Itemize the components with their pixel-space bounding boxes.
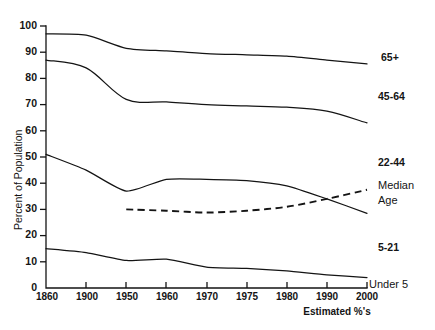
y-tick-label-30: 30 xyxy=(25,202,37,214)
y-tick-label-90: 90 xyxy=(25,45,37,57)
y-axis-title: Percent of Population xyxy=(12,129,24,230)
series-label-22-44[interactable]: 22-44 xyxy=(378,156,405,168)
line-chart-plot: 100 90 80 70 60 50 40 30 20 10 0 1860 19 xyxy=(0,0,435,330)
x-tick-label-1975: 1975 xyxy=(236,291,259,302)
chart-container: 100 90 80 70 60 50 40 30 20 10 0 1860 19 xyxy=(0,0,435,330)
x-tick-label-1900: 1900 xyxy=(76,291,99,302)
y-tick-label-60: 60 xyxy=(25,124,37,136)
x-tick-label-2000: 2000 xyxy=(356,291,379,302)
series-labels: 65+ 45-64 22-44 Median Age 5-21 Under 5 xyxy=(369,51,414,290)
x-tick-label-1970: 1970 xyxy=(196,291,219,302)
series-label-median-age[interactable]: Median xyxy=(378,179,414,191)
series-65plus[interactable] xyxy=(46,34,367,64)
y-axis-ticks xyxy=(40,26,46,262)
y-tick-label-80: 80 xyxy=(25,71,37,83)
x-axis-tick-labels: 1860 1900 1950 1960 1970 1975 1980 1990 … xyxy=(36,291,379,302)
series-45-64[interactable] xyxy=(46,60,367,123)
x-tick-label-1860: 1860 xyxy=(36,291,59,302)
x-tick-label-1960: 1960 xyxy=(156,291,179,302)
series-label-45-64[interactable]: 45-64 xyxy=(378,90,405,102)
x-axis-ticks xyxy=(86,282,367,288)
series-label-5-21[interactable]: 5-21 xyxy=(378,241,399,253)
series-group xyxy=(46,34,367,278)
y-tick-label-40: 40 xyxy=(25,176,37,188)
x-axis-title: Estimated %'s xyxy=(303,306,371,317)
series-5-21[interactable] xyxy=(46,249,367,278)
series-median-age[interactable] xyxy=(126,190,367,213)
x-tick-label-1950: 1950 xyxy=(116,291,139,302)
y-tick-label-70: 70 xyxy=(25,97,37,109)
y-tick-label-50: 50 xyxy=(25,150,37,162)
x-tick-label-1990: 1990 xyxy=(316,291,339,302)
y-tick-label-10: 10 xyxy=(25,255,37,267)
y-tick-label-20: 20 xyxy=(25,228,37,240)
series-label-median-age-line2: Age xyxy=(378,194,398,206)
y-tick-label-100: 100 xyxy=(19,19,37,31)
axis-lines xyxy=(46,26,367,288)
x-tick-label-1980: 1980 xyxy=(276,291,299,302)
series-label-65plus[interactable]: 65+ xyxy=(381,51,399,63)
series-label-under5[interactable]: Under 5 xyxy=(369,278,408,290)
